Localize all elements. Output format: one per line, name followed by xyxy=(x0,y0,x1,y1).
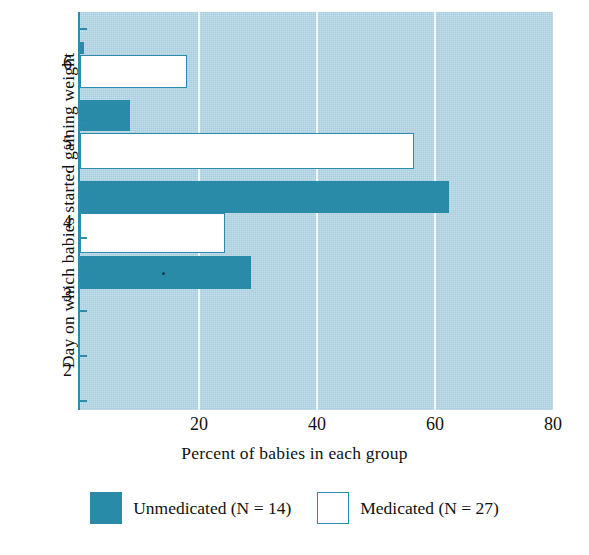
legend-swatch-unmedicated xyxy=(90,492,122,524)
y-tick-mark-bottom xyxy=(78,400,87,402)
bar-medicated-day4 xyxy=(80,213,225,253)
y-axis-tick-labels: 6 5 4 3 2 xyxy=(36,0,72,420)
y-axis-line xyxy=(78,12,80,410)
x-tick-label-60: 60 xyxy=(426,414,444,435)
bar-medicated-day6 xyxy=(80,55,187,88)
y-tick-label-2: 2 xyxy=(46,360,72,381)
x-tick-label-40: 40 xyxy=(308,414,326,435)
y-tick-mark-4 xyxy=(78,237,87,239)
y-tick-mark-3 xyxy=(78,310,87,312)
x-axis-tick-labels: 20 40 60 80 xyxy=(80,414,553,444)
y-tick-label-5: 5 xyxy=(46,133,72,154)
x-tick-label-20: 20 xyxy=(190,414,208,435)
legend-label-unmedicated: Unmedicated (N = 14) xyxy=(133,498,291,519)
legend-entry-unmedicated: Unmedicated (N = 14) xyxy=(90,492,291,524)
chart-legend: Unmedicated (N = 14) Medicated (N = 27) xyxy=(0,492,589,524)
x-axis-label: Percent of babies in each group xyxy=(0,443,589,464)
y-tick-label-6: 6 xyxy=(46,53,72,74)
bar-unmedicated-day5 xyxy=(80,100,130,131)
y-tick-mark-top xyxy=(78,28,87,30)
x-tick-label-80: 80 xyxy=(544,414,562,435)
bar-unmedicated-day3 xyxy=(80,256,251,289)
legend-entry-medicated: Medicated (N = 27) xyxy=(317,492,499,524)
plot-area xyxy=(80,12,553,410)
y-tick-label-4: 4 xyxy=(46,212,72,233)
y-tick-mark-2 xyxy=(78,355,87,357)
y-tick-mark-5 xyxy=(78,122,87,124)
print-speck xyxy=(162,272,165,275)
legend-swatch-medicated xyxy=(317,492,349,524)
y-tick-label-3: 3 xyxy=(46,285,72,306)
bar-medicated-day5 xyxy=(80,133,414,169)
legend-label-medicated: Medicated (N = 27) xyxy=(360,498,499,519)
bar-chart-figure: Day on which babies started gaining weig… xyxy=(0,0,589,555)
bar-unmedicated-day6 xyxy=(80,42,84,54)
bar-unmedicated-day4 xyxy=(80,181,449,213)
